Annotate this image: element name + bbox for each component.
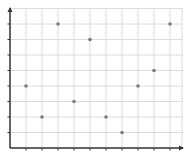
axes bbox=[8, 7, 185, 151]
data-point bbox=[40, 115, 44, 119]
data-point bbox=[152, 69, 156, 73]
data-point bbox=[24, 84, 28, 88]
data-point bbox=[168, 22, 172, 26]
data-point bbox=[104, 115, 108, 119]
data-point bbox=[120, 131, 124, 135]
grid-lines bbox=[10, 8, 183, 148]
data-point bbox=[56, 22, 60, 26]
y-axis-arrow-icon bbox=[8, 7, 13, 12]
data-point bbox=[136, 84, 140, 88]
scatter-chart bbox=[0, 0, 185, 158]
data-point bbox=[72, 100, 76, 104]
data-point bbox=[88, 38, 92, 42]
